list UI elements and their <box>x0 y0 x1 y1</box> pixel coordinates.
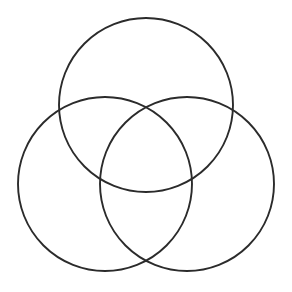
figure-canvas <box>0 0 292 292</box>
background-rect <box>0 0 292 292</box>
venn-diagram <box>0 0 292 292</box>
